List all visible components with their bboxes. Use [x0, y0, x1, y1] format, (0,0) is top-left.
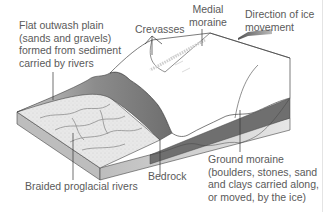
label-outwash-plain: Flat outwash plain (sands and gravels) f…	[19, 19, 121, 69]
label-braided-rivers: Braided proglacial rivers	[25, 180, 138, 193]
label-medial-moraine: Medial moraine	[189, 3, 227, 28]
label-ice-direction: Direction of ice movement	[245, 8, 314, 33]
right-border-line	[322, 0, 323, 212]
glacier-diagram: Flat outwash plain (sands and gravels) f…	[0, 0, 333, 212]
label-bedrock: Bedrock	[148, 170, 187, 183]
label-crevasses: Crevasses	[135, 23, 185, 36]
label-ground-moraine: Ground moraine (boulders, stones, sand a…	[208, 153, 319, 203]
